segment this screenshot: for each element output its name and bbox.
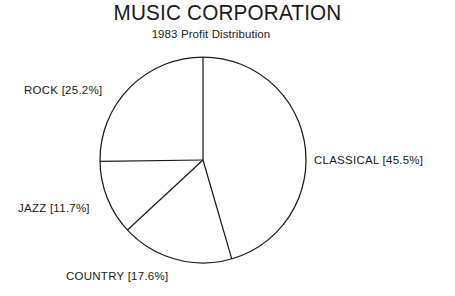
slice-label-classical: CLASSICAL [45.5%] — [314, 153, 423, 167]
slice-label-jazz: JAZZ [11.7%] — [18, 201, 90, 215]
pie-graphic — [0, 0, 455, 296]
pie-divider-line — [127, 160, 203, 230]
pie-divider-line — [100, 160, 203, 161]
pie-chart-figure: MUSIC CORPORATION 1983 Profit Distributi… — [0, 0, 455, 296]
pie-divider-line — [203, 160, 232, 259]
slice-label-rock: ROCK [25.2%] — [24, 83, 102, 97]
pie-slice-dividers — [100, 57, 232, 259]
slice-label-country: COUNTRY [17.6%] — [66, 269, 168, 283]
